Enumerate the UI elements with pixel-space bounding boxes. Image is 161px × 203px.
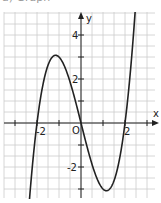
- y-tick-label: 2: [72, 74, 78, 85]
- x-tick-label: -2: [36, 126, 46, 137]
- function-graph: xyO-2242-2: [0, 0, 161, 203]
- axis-labels: xyO-2242-2: [36, 13, 159, 173]
- y-tick-label: 4: [72, 30, 78, 41]
- y-tick-label: -2: [67, 162, 77, 173]
- y-axis-label: y: [86, 13, 92, 24]
- x-axis-label: x: [153, 108, 159, 119]
- cubic-curve: [30, 12, 136, 199]
- x-tick-label: 2: [124, 126, 130, 137]
- origin-label: O: [72, 125, 80, 136]
